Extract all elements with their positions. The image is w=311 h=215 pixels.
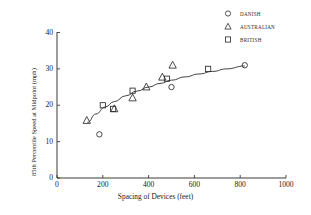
data-point-british — [206, 66, 211, 71]
legend-label-australian: AUSTRALIAN — [236, 24, 275, 30]
data-point-danish — [242, 63, 247, 68]
axes-group — [57, 32, 286, 178]
y-tick-label: 40 — [31, 28, 53, 37]
data-markers-group — [83, 61, 247, 137]
data-point-australian — [159, 73, 166, 80]
data-point-danish — [169, 84, 174, 89]
chart-legend: DANISH AUSTRALIAN BRITISH — [222, 7, 308, 46]
legend-item-danish: DANISH — [222, 7, 308, 20]
data-point-australian — [83, 117, 90, 124]
x-tick-label: 400 — [134, 180, 164, 189]
x-tick-label: 600 — [179, 180, 209, 189]
triangle-icon — [222, 21, 236, 32]
fitted-trend-curve — [87, 66, 244, 122]
x-axis-title: Spacing of Devices (feet) — [0, 192, 311, 201]
x-tick-label: 800 — [225, 180, 255, 189]
legend-item-british: BRITISH — [222, 33, 308, 46]
x-tick-label: 1000 — [271, 180, 301, 189]
chart-figure: 02004006008001000010203040 Spacing of De… — [0, 0, 311, 215]
square-icon — [222, 34, 236, 45]
data-point-danish — [97, 132, 102, 137]
data-point-australian — [129, 94, 136, 101]
y-axis-title: 85th Percentile Speed at Midpoint (mph) — [30, 68, 37, 176]
legend-label-danish: DANISH — [236, 11, 261, 17]
circle-icon — [222, 8, 236, 19]
x-tick-label: 200 — [88, 180, 118, 189]
data-point-australian — [169, 61, 176, 68]
legend-item-australian: AUSTRALIAN — [222, 20, 308, 33]
legend-label-british: BRITISH — [236, 37, 262, 43]
